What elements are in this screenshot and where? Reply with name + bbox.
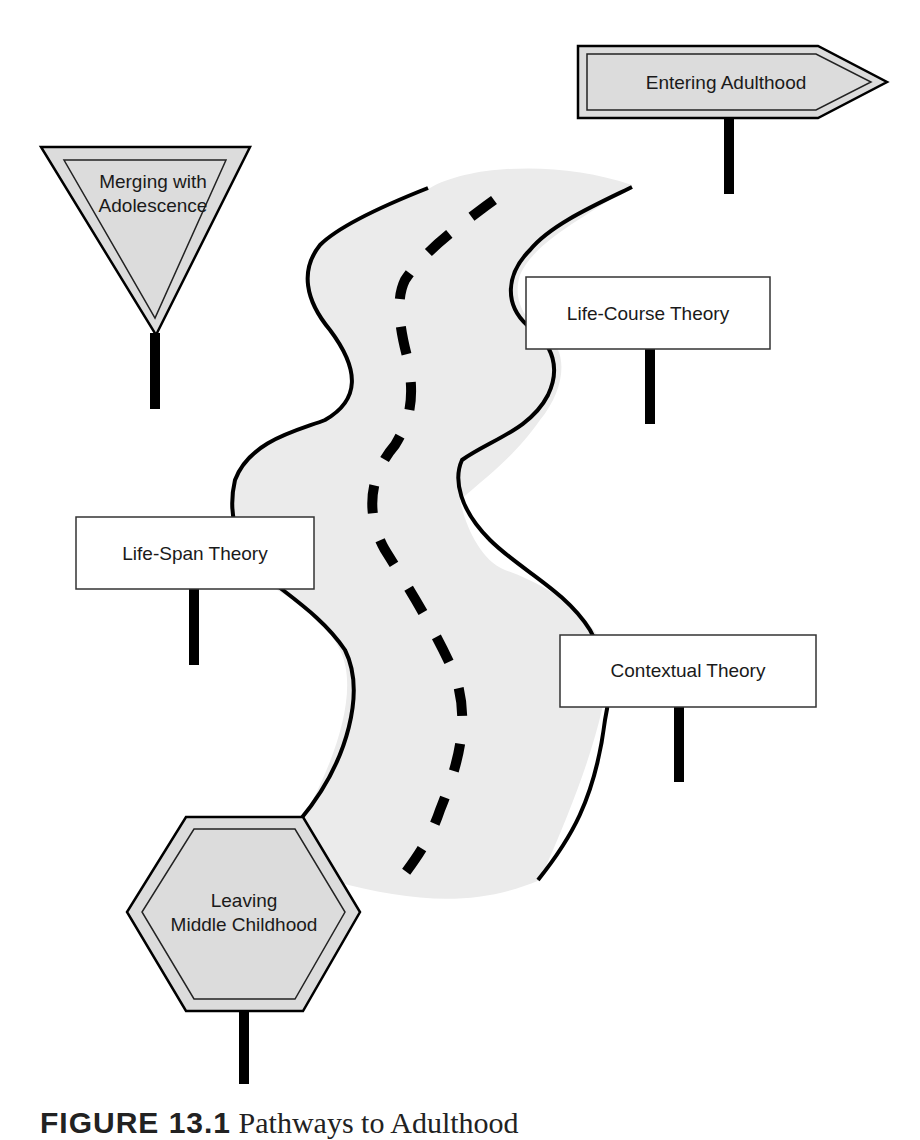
- sign-label-line1: Merging with: [99, 171, 207, 192]
- sign-life-span-theory: Life-Span Theory: [76, 517, 314, 665]
- sign-label-line2: Middle Childhood: [171, 914, 318, 935]
- sign-label-line2: Adolescence: [99, 195, 208, 216]
- sign-post: [724, 118, 734, 194]
- sign-entering-adulthood: Entering Adulthood: [578, 46, 887, 194]
- figure-title: Pathways to Adulthood: [239, 1106, 519, 1139]
- sign-label: Life-Course Theory: [567, 303, 730, 324]
- sign-merging-adolescence: Merging with Adolescence: [41, 147, 250, 409]
- sign-post: [645, 348, 655, 424]
- sign-label-line1: Leaving: [211, 890, 278, 911]
- sign-label: Entering Adulthood: [646, 72, 807, 93]
- sign-label: Contextual Theory: [611, 660, 766, 681]
- sign-leaving-middle-childhood: Leaving Middle Childhood: [127, 817, 360, 1084]
- sign-life-course-theory: Life-Course Theory: [526, 277, 770, 424]
- sign-post: [150, 333, 160, 409]
- sign-post: [674, 706, 684, 782]
- sign-label: Life-Span Theory: [122, 543, 268, 564]
- figure-number: FIGURE 13.1: [40, 1106, 231, 1139]
- sign-post: [239, 1010, 249, 1084]
- figure-caption: FIGURE 13.1 Pathways to Adulthood: [40, 1106, 519, 1140]
- sign-post: [189, 589, 199, 665]
